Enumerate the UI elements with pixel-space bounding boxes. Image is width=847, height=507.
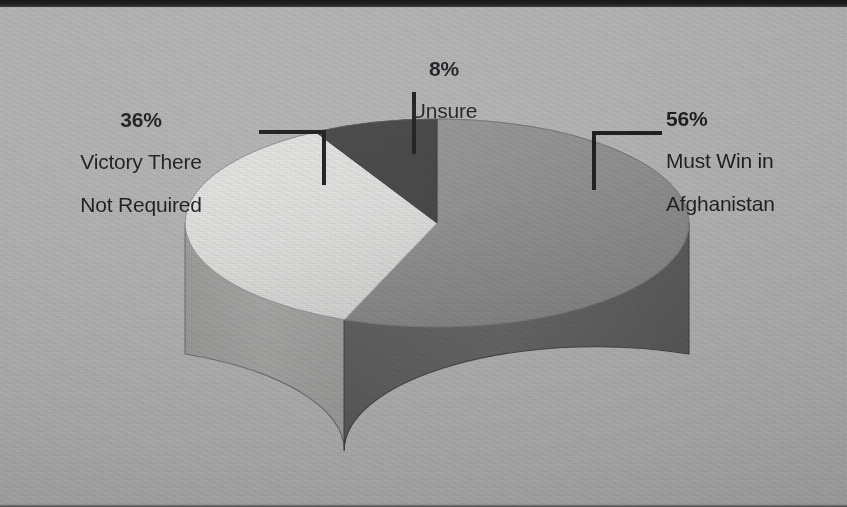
callout-victory-label-line2: Not Required — [26, 193, 256, 217]
callout-victory-label-line1: Victory There — [26, 150, 256, 174]
callout-victory-there-not-required: 36% Victory There Not Required — [26, 89, 256, 236]
callout-unsure-label-line1: Unsure — [349, 99, 539, 123]
callout-must-win-in-afghanistan: 56% Must Win in Afghanistan — [666, 88, 846, 235]
chart-page: 8% Unsure 36% Victory There Not Required… — [0, 0, 847, 507]
pie-top-face — [185, 119, 689, 327]
callout-must-win-percent: 56% — [666, 107, 846, 131]
callout-unsure-percent: 8% — [349, 57, 539, 81]
callout-must-win-label-line2: Afghanistan — [666, 192, 846, 216]
scan-edge-top — [0, 0, 847, 7]
callout-must-win-label-line1: Must Win in — [666, 149, 846, 173]
callout-unsure: 8% Unsure — [349, 38, 539, 142]
callout-victory-percent: 36% — [26, 108, 256, 132]
